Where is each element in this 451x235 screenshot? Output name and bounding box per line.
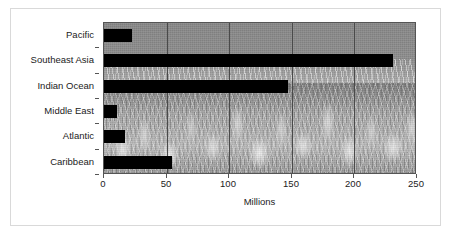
y-axis-label-caribbean: Caribbean (50, 149, 94, 174)
bar-row (104, 150, 172, 174)
bar-indian-ocean (104, 80, 288, 93)
y-axis-tick (95, 47, 99, 48)
y-axis-label-pacific: Pacific (66, 22, 94, 47)
bar-row (104, 48, 393, 73)
bar-caribbean (104, 156, 172, 169)
bar-row (104, 23, 132, 48)
y-axis-label-middle-east: Middle East (44, 98, 94, 123)
bar-row (104, 99, 117, 124)
bar-atlantic (104, 130, 125, 143)
y-axis-label-indian-ocean: Indian Ocean (37, 73, 94, 98)
bar-middle-east (104, 105, 117, 118)
chart-figure: PacificSoutheast AsiaIndian OceanMiddle … (0, 0, 451, 235)
y-axis-label-southeast-asia: Southeast Asia (31, 47, 94, 72)
x-axis-tick-label-0: 0 (100, 178, 105, 189)
bar-row (104, 74, 288, 99)
x-axis-tick-label-200: 200 (345, 178, 361, 189)
bar-series (104, 23, 415, 173)
y-axis-tick (95, 98, 99, 99)
x-axis-tick-label-150: 150 (283, 178, 299, 189)
y-axis-category-labels: PacificSoutheast AsiaIndian OceanMiddle … (12, 22, 99, 174)
y-axis-tick (95, 149, 99, 150)
bar-pacific (104, 29, 132, 42)
x-axis-tick-label-100: 100 (220, 178, 236, 189)
y-axis-tick (95, 123, 99, 124)
y-axis-tick (95, 73, 99, 74)
x-axis-tick-label-250: 250 (408, 178, 424, 189)
y-axis-tick (95, 174, 99, 175)
x-axis-tick-labels: 050100150200250 (103, 178, 416, 192)
bar-row (104, 124, 125, 149)
bar-southeast-asia (104, 54, 393, 67)
y-axis-label-atlantic: Atlantic (63, 123, 94, 148)
x-axis-title: Millions (103, 196, 416, 207)
plot-area (103, 22, 416, 174)
x-axis-tick-label-50: 50 (161, 178, 172, 189)
